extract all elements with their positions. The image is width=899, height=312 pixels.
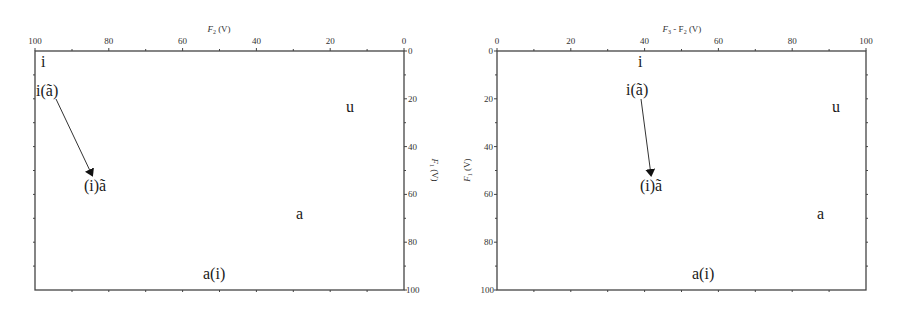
figure: 100 80 60 40 20 0 F2 (V) 0 20 40 60 80 1… xyxy=(0,0,899,312)
right-chart: 0 20 40 60 80 100 F3 - F2 (V) 0 20 40 60… xyxy=(462,24,873,295)
left-chart: 100 80 60 40 20 0 F2 (V) 0 20 40 60 80 1… xyxy=(28,24,440,295)
right-y-tick-label: 0 xyxy=(489,46,494,56)
left-y-tick-label: 100 xyxy=(406,285,420,295)
right-point-label-a-i: a(i) xyxy=(692,265,714,283)
left-point-label-nasal-a: (i)ã xyxy=(84,177,106,195)
right-point-label-i-nasal-a: i(ã) xyxy=(626,81,648,99)
right-point-label-a: a xyxy=(817,205,824,222)
left-x-tick-label: 20 xyxy=(326,36,336,46)
right-plot-frame xyxy=(497,51,866,290)
left-point-label-a: a xyxy=(296,205,303,222)
right-x-tick-label: 40 xyxy=(640,36,650,46)
right-y-tick-label: 100 xyxy=(481,285,495,295)
right-y-tick-label: 40 xyxy=(484,142,494,152)
left-x-tick-label: 100 xyxy=(28,36,42,46)
left-y-tick-label: 0 xyxy=(408,46,413,56)
right-x-tick-label: 60 xyxy=(714,36,724,46)
right-x-tick-label: 100 xyxy=(859,36,873,46)
left-y-ticks xyxy=(33,51,407,290)
left-x-tick-label: 60 xyxy=(178,36,188,46)
left-y-tick-label: 40 xyxy=(408,142,418,152)
left-arrow xyxy=(56,99,92,175)
left-point-label-a-i: a(i) xyxy=(203,265,225,283)
right-y-tick-label: 20 xyxy=(484,94,494,104)
left-x-tick-label: 0 xyxy=(402,36,407,46)
left-x-tick-label: 40 xyxy=(252,36,262,46)
left-x-tick-label: 80 xyxy=(104,36,114,46)
right-point-label-u: u xyxy=(832,98,840,115)
right-x-tick-label: 20 xyxy=(566,36,576,46)
left-y-axis-title: F1 (V) xyxy=(429,157,440,181)
left-point-label-i: i xyxy=(41,53,46,70)
right-point-label-nasal-a: (i)ã xyxy=(640,177,662,195)
right-y-tick-label: 60 xyxy=(484,189,494,199)
right-x-tick-label: 80 xyxy=(788,36,798,46)
left-y-tick-label: 80 xyxy=(408,237,418,247)
left-x-ticks xyxy=(35,48,404,292)
right-x-axis-title: F3 - F2 (V) xyxy=(662,24,702,35)
left-y-tick-label: 20 xyxy=(408,94,418,104)
right-arrow xyxy=(641,99,651,175)
left-y-tick-label: 60 xyxy=(408,189,418,199)
right-y-tick-label: 80 xyxy=(484,237,494,247)
right-x-ticks xyxy=(497,48,866,292)
left-point-label-i-nasal-a: i(ã) xyxy=(36,82,58,100)
right-x-tick-label: 0 xyxy=(495,36,500,46)
right-y-axis-title: F1 (V) xyxy=(462,158,473,182)
left-point-label-u: u xyxy=(346,98,354,115)
left-x-axis-title: F2 (V) xyxy=(206,24,230,35)
right-point-label-i: i xyxy=(638,53,643,70)
right-y-ticks xyxy=(494,51,868,290)
